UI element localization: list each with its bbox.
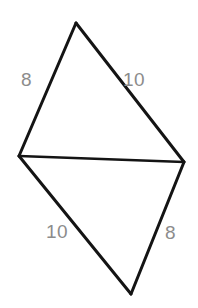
- label-top-left-edge: 8: [21, 70, 32, 89]
- label-bottom-right-edge: 8: [165, 223, 176, 242]
- label-top-right-edge: 10: [123, 70, 145, 89]
- top-right-edge: [76, 23, 184, 162]
- bottom-right-edge: [131, 162, 184, 294]
- label-bottom-left-edge: 10: [46, 222, 68, 241]
- shared-diagonal-edge: [19, 156, 184, 162]
- figure-canvas: 8 10 10 8: [0, 0, 198, 308]
- geometry-diagram: [0, 0, 198, 308]
- bottom-left-edge: [19, 156, 131, 294]
